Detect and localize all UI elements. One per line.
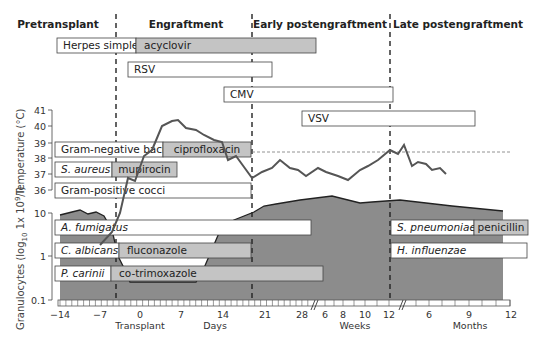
drug-label: penicillin bbox=[478, 221, 525, 233]
y-ticks: 4140393837361010.1 bbox=[31, 105, 52, 306]
infection-timeline-figure: PretransplantEngraftmentEarly postengraf… bbox=[0, 0, 543, 343]
pathogen-label: H. influenzae bbox=[397, 244, 466, 256]
drug-label: co-trimoxazole bbox=[119, 267, 197, 279]
pathogen-label: A. fumigatus bbox=[60, 221, 128, 233]
y-tick-label: 36 bbox=[34, 185, 46, 196]
pathogen-label: Herpes simplex bbox=[63, 39, 144, 51]
y-tick-label: 1 bbox=[40, 251, 46, 262]
pathogen-label: CMV bbox=[230, 88, 254, 100]
phase-label-3: Late postengraftment bbox=[393, 18, 523, 30]
x-tick-label: 14 bbox=[217, 309, 229, 320]
x-tick-label: 9 bbox=[466, 309, 472, 320]
x-tick-label: 12 bbox=[505, 309, 517, 320]
bar-c-albicans: C. albicansfluconazole bbox=[55, 243, 251, 258]
granulocyte-axis-title: Granulocytes (log10 1x 109/l) bbox=[14, 186, 29, 330]
pathogen-label: S. aureus bbox=[61, 163, 111, 175]
days-label: Days bbox=[203, 320, 227, 331]
x-tick-label: −14 bbox=[50, 309, 70, 320]
bar-p-carinii: P. cariniico-trimoxazole bbox=[55, 266, 323, 281]
x-tick-label: −7 bbox=[93, 309, 107, 320]
x-tick-label: 10 bbox=[359, 309, 371, 320]
bar-a-fumigatus: A. fumigatus bbox=[55, 220, 311, 235]
x-tick-label: 0 bbox=[137, 309, 143, 320]
x-tick-label: 12 bbox=[383, 309, 395, 320]
phase-label-2: Early postengraftment bbox=[253, 18, 387, 30]
phase-labels: PretransplantEngraftmentEarly postengraf… bbox=[17, 18, 523, 30]
bar-gram-positive-cocci: Gram-positive cocci bbox=[55, 183, 251, 198]
x-tick-label: 21 bbox=[259, 309, 271, 320]
phase-label-0: Pretransplant bbox=[17, 18, 99, 30]
weeks-label: Weeks bbox=[340, 320, 371, 331]
temperature-axis-title: Temperature (°C) bbox=[15, 109, 26, 196]
bar-s-aureus: S. aureusmupirocin bbox=[55, 162, 177, 177]
pathogen-label: C. albicans bbox=[61, 244, 119, 256]
x-tick-label: 7 bbox=[178, 309, 184, 320]
x-tick-label: 6 bbox=[426, 309, 432, 320]
x-tick-label: 8 bbox=[340, 309, 346, 320]
transplant-label: Transplant bbox=[114, 320, 165, 331]
pathogen-label: S. pneumoniae bbox=[397, 221, 476, 233]
bar-rsv: RSV bbox=[128, 62, 272, 77]
y-tick-label: 37 bbox=[34, 169, 46, 180]
pathogen-label: RSV bbox=[134, 63, 156, 75]
x-tick-label: 28 bbox=[296, 309, 308, 320]
y-tick-label: 41 bbox=[34, 105, 46, 116]
drug-label: acyclovir bbox=[144, 39, 192, 51]
drug-label: fluconazole bbox=[127, 244, 187, 256]
bar-herpes-simplex: Herpes simplexacyclovir bbox=[57, 38, 316, 53]
pathogen-label: VSV bbox=[308, 112, 330, 124]
drug-label: ciprofloxacin bbox=[174, 143, 241, 155]
pathogen-label: P. carinii bbox=[61, 267, 105, 279]
pathogen-label: Gram-positive cocci bbox=[61, 184, 165, 196]
y-tick-label: 10 bbox=[34, 208, 46, 219]
y-tick-label: 0.1 bbox=[31, 295, 46, 306]
y-tick-label: 40 bbox=[34, 121, 46, 132]
bar-vsv: VSV bbox=[302, 111, 475, 126]
bar-h-influenzae: H. influenzae bbox=[391, 243, 527, 258]
drug-label: mupirocin bbox=[118, 163, 170, 175]
x-tick-label: 6 bbox=[322, 309, 328, 320]
y-tick-label: 38 bbox=[34, 153, 46, 164]
pathogen-label: Gram-negative bacilli bbox=[61, 143, 174, 155]
bar-s-pneumoniae: S. pneumoniaepenicillin bbox=[391, 220, 528, 235]
bar-cmv: CMV bbox=[224, 87, 393, 102]
phase-label-1: Engraftment bbox=[149, 18, 224, 30]
months-label: Months bbox=[453, 320, 488, 331]
y-tick-label: 39 bbox=[34, 138, 46, 149]
